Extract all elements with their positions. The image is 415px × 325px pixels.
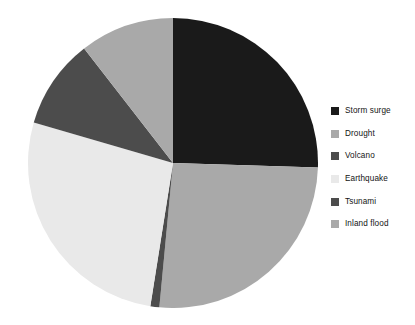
legend-swatch-drought (331, 130, 339, 138)
legend-label-earthquake: Earthquake (345, 174, 388, 184)
pie-slice-drought[interactable] (159, 163, 318, 308)
legend-swatch-tsunami (331, 198, 339, 206)
pie-chart-figure: Storm surge Drought Volcano Earthquake T… (0, 0, 415, 325)
pie-slice-group (28, 18, 318, 308)
legend-item-drought[interactable]: Drought (331, 123, 415, 146)
chart-legend: Storm surge Drought Volcano Earthquake T… (331, 100, 415, 236)
legend-item-storm-surge[interactable]: Storm surge (331, 100, 415, 123)
legend-item-tsunami[interactable]: Tsunami (331, 190, 415, 213)
legend-label-drought: Drought (345, 129, 375, 139)
legend-label-tsunami: Tsunami (345, 197, 376, 207)
legend-swatch-earthquake (331, 175, 339, 183)
legend-swatch-volcano (331, 152, 339, 160)
pie-slice-storm-surge[interactable] (173, 18, 318, 168)
pie-chart-svg (28, 18, 318, 308)
legend-label-inland-flood: Inland flood (345, 219, 389, 229)
legend-item-earthquake[interactable]: Earthquake (331, 168, 415, 191)
legend-swatch-inland-flood (331, 220, 339, 228)
legend-swatch-storm-surge (331, 107, 339, 115)
legend-label-volcano: Volcano (345, 151, 375, 161)
pie-chart-plot-area (28, 18, 318, 308)
legend-item-volcano[interactable]: Volcano (331, 145, 415, 168)
legend-label-storm-surge: Storm surge (345, 106, 391, 116)
legend-item-inland-flood[interactable]: Inland flood (331, 213, 415, 236)
